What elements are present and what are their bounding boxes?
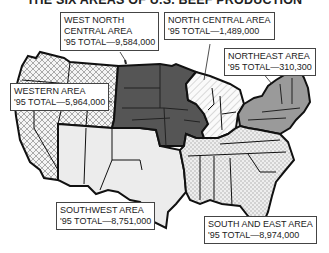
label-line: SOUTHWEST AREA [60,205,151,216]
label-west-north-central: WEST NORTH CENTRAL AREA '95 TOTAL—9,584,… [60,12,159,51]
label-line: CENTRAL AREA [64,26,155,37]
label-line: WEST NORTH [64,15,155,26]
label-north-central: NORTH CENTRAL AREA '95 TOTAL—1,489,000 [164,12,275,40]
label-line: WESTERN AREA [14,86,105,97]
label-line: NORTHEAST AREA [228,51,312,62]
label-total: '95 TOTAL—5,964,000 [14,97,105,108]
region-south-east [180,126,294,226]
label-western: WESTERN AREA '95 TOTAL—5,964,000 [10,83,109,111]
label-line: SOUTH AND EAST AREA [208,219,313,230]
label-total: '95 TOTAL—9,584,000 [64,37,155,48]
label-south-east: SOUTH AND EAST AREA '95 TOTAL—8,974,000 [204,216,317,244]
label-total: '95 TOTAL—8,751,000 [60,216,151,227]
label-line: NORTH CENTRAL AREA [168,15,271,26]
label-southwest: SOUTHWEST AREA '95 TOTAL—8,751,000 [56,202,155,230]
region-northeast [238,70,310,134]
label-total: '95 TOTAL—8,974,000 [208,230,313,241]
label-northeast: NORTHEAST AREA '95 TOTAL—310,300 [224,48,316,76]
label-total: '95 TOTAL—310,300 [228,62,312,73]
label-total: '95 TOTAL—1,489,000 [168,26,271,37]
